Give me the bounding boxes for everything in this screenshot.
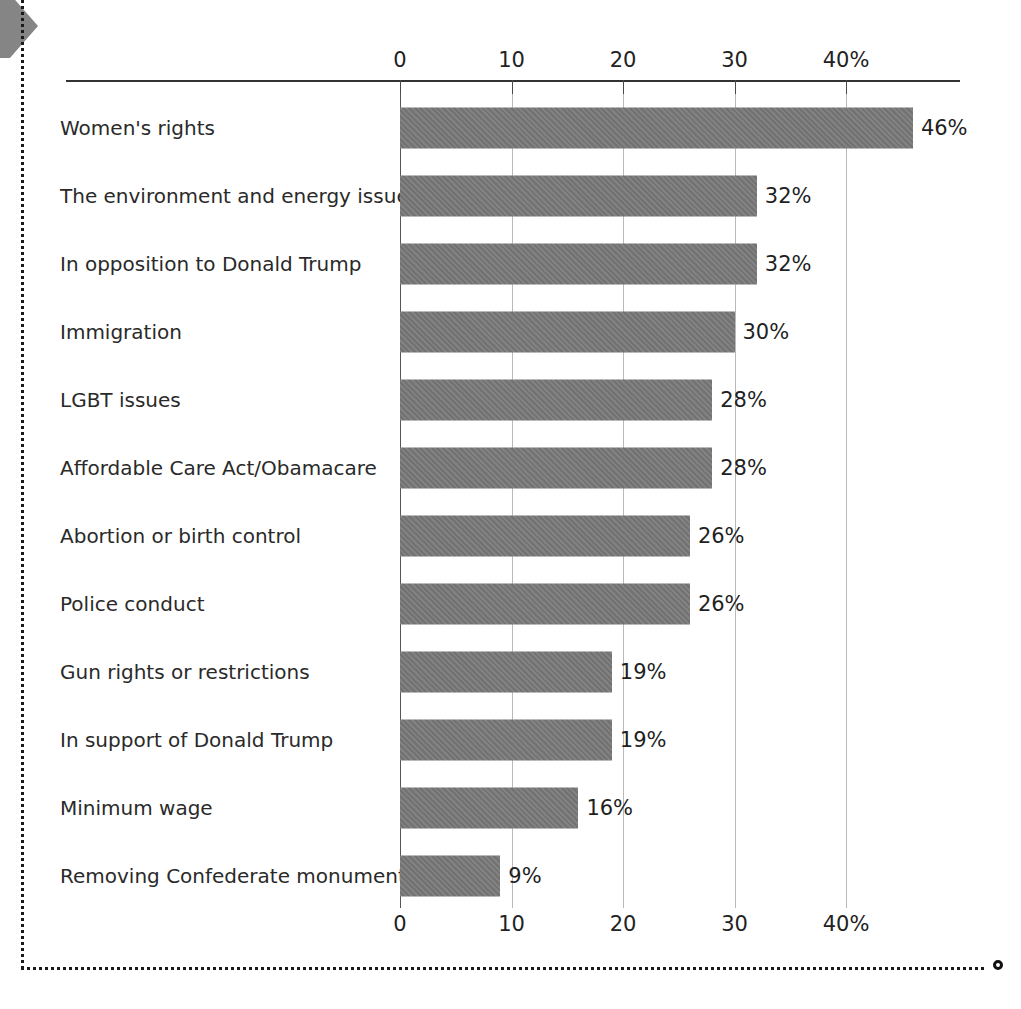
category-label: Gun rights or restrictions [60,660,310,684]
bar-row: Gun rights or restrictions19% [0,638,1021,706]
bar [400,720,612,761]
axis-tick-label-bottom-10: 10 [498,912,525,936]
bar [400,312,735,353]
axis-tick-label-bottom-40: 40% [823,912,870,936]
axis-line-top [66,80,960,82]
bar-row: Women's rights46% [0,94,1021,162]
bar-value-label: 32% [765,252,812,276]
bar-value-label: 26% [698,524,745,548]
category-label: In opposition to Donald Trump [60,252,361,276]
bar-row: In support of Donald Trump19% [0,706,1021,774]
category-label: In support of Donald Trump [60,728,333,752]
bar-row: Immigration30% [0,298,1021,366]
tick-mark-40 [846,80,847,94]
bar [400,788,578,829]
tick-mark-0 [400,80,401,94]
axis-tick-label-top-0: 0 [393,48,406,72]
bar [400,584,690,625]
category-label: Police conduct [60,592,204,616]
bar-value-label: 26% [698,592,745,616]
category-label: Immigration [60,320,182,344]
bar-row: Abortion or birth control26% [0,502,1021,570]
bar-value-label: 28% [720,456,767,480]
bar-row: Removing Confederate monuments9% [0,842,1021,910]
bar-row: The environment and energy issues32% [0,162,1021,230]
bar [400,448,712,489]
axis-tick-label-bottom-30: 30 [721,912,748,936]
bar-value-label: 16% [586,796,633,820]
bar-value-label: 46% [921,116,968,140]
tick-mark-10 [512,80,513,94]
bar-value-label: 9% [508,864,541,888]
bar-row: Police conduct26% [0,570,1021,638]
bar [400,380,712,421]
horizontal-bar-chart: 010203040% 010203040% Women's rights46%T… [0,0,1021,1009]
category-label: Women's rights [60,116,215,140]
category-label: Abortion or birth control [60,524,301,548]
bar [400,516,690,557]
axis-tick-label-top-10: 10 [498,48,525,72]
bar-row: Minimum wage16% [0,774,1021,842]
bar-value-label: 30% [743,320,790,344]
tick-mark-20 [623,80,624,94]
bar [400,856,500,897]
bar [400,108,913,149]
axis-tick-label-bottom-0: 0 [393,912,406,936]
bar-value-label: 28% [720,388,767,412]
axis-tick-label-bottom-20: 20 [610,912,637,936]
axis-tick-label-top-20: 20 [610,48,637,72]
bar-row: Affordable Care Act/Obamacare28% [0,434,1021,502]
category-label: Removing Confederate monuments [60,864,416,888]
bar [400,652,612,693]
bar [400,244,757,285]
category-label: The environment and energy issues [60,184,419,208]
tick-mark-30 [735,80,736,94]
bar-row: LGBT issues28% [0,366,1021,434]
axis-tick-label-top-40: 40% [823,48,870,72]
bar [400,176,757,217]
bar-value-label: 19% [620,728,667,752]
category-label: Affordable Care Act/Obamacare [60,456,377,480]
category-label: Minimum wage [60,796,213,820]
bar-row: In opposition to Donald Trump32% [0,230,1021,298]
category-label: LGBT issues [60,388,181,412]
bar-value-label: 32% [765,184,812,208]
chart-page: 010203040% 010203040% Women's rights46%T… [0,0,1021,1009]
bar-value-label: 19% [620,660,667,684]
axis-tick-label-top-30: 30 [721,48,748,72]
